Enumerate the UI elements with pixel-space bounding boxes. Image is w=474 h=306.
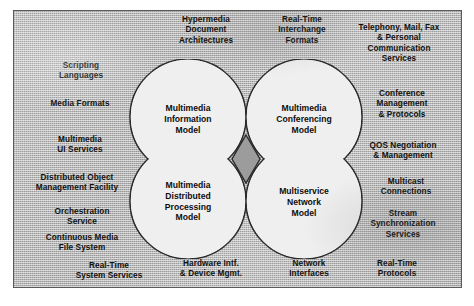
core-label-multiservice-network-model: Multiservice Network Model [250,186,358,218]
label-hypermedia-document-architectures: Hypermedia Document Architectures [154,15,258,46]
label-continuous-media-file-system: Continuous Media File System [24,233,140,254]
label-media-formats: Media Formats [26,99,134,109]
label-scripting-languages: Scripting Languages [32,61,130,82]
label-real-time-interchange-formats: Real-Time Interchange Formats [258,15,346,46]
diagram-root: Hypermedia Document Architectures Real-T… [0,0,474,306]
label-hardware-intf-device-mgmt: Hardware Intf. & Device Mgmt. [158,259,264,280]
label-multicast-connections: Multicast Connections [356,177,456,198]
label-network-interfaces: Network Interfaces [266,259,352,280]
label-orchestration-service: Orchestration Service [32,207,132,228]
core-label-information-model: Multimedia Information Model [134,103,242,135]
core-label-distributed-processing-model: Multimedia Distributed Processing Model [134,180,242,223]
label-real-time-system-services: Real-Time System Services [54,261,164,282]
core-label-conferencing-model: Multimedia Conferencing Model [250,103,358,135]
label-real-time-protocols: Real-Time Protocols [348,259,446,280]
diagram-frame: Hypermedia Document Architectures Real-T… [13,10,462,288]
label-distributed-object-management-facility: Distributed Object Management Facility [16,173,138,194]
quatrefoil-core: Multimedia Information Model Multimedia … [126,59,366,259]
label-multimedia-ui-services: Multimedia UI Services [30,135,130,156]
